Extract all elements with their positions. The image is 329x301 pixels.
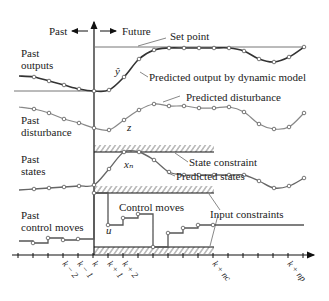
state-constraint-upper-hatch [94, 145, 214, 152]
output-point [137, 57, 141, 61]
disturbance-point [77, 121, 81, 125]
state-point [77, 184, 81, 188]
output-point [152, 48, 156, 52]
output-points [32, 45, 306, 93]
predicted-output-leader [140, 72, 148, 77]
output-point [182, 46, 186, 50]
disturbance-point [287, 125, 291, 129]
past-states-label-2: states [21, 165, 45, 177]
disturbance-point [152, 102, 156, 106]
set-point-leader [138, 38, 166, 46]
output-point [227, 46, 231, 50]
control-point [46, 236, 50, 240]
input-constraints-label: Input constraints [210, 208, 284, 220]
y-hat-label: ŷ [114, 65, 120, 77]
output-point [47, 79, 51, 83]
output-point [302, 45, 306, 49]
state-point [107, 167, 111, 171]
disturbance-point [122, 118, 126, 122]
disturbance-point [257, 122, 261, 126]
state-point [62, 185, 66, 189]
state-point [302, 176, 306, 180]
past-control-label-2: control moves [21, 221, 84, 233]
output-point [77, 87, 81, 91]
tick-label-kp2: k + 2 [120, 259, 140, 280]
output-point [272, 60, 276, 64]
disturbance-point [272, 127, 276, 131]
output-point [107, 88, 111, 92]
tick-label-km1: k − 1 [75, 259, 95, 280]
state-constraint-lower-hatch [94, 186, 214, 193]
past-disturbance-label-2: disturbance [21, 126, 72, 138]
past-disturbance-label-1: Past [21, 114, 39, 126]
state-constraint-leader [175, 153, 188, 162]
state-point [287, 184, 291, 188]
disturbance-point [32, 107, 36, 111]
predicted-output-label: Predicted output by dynamic model [149, 71, 306, 83]
past-outputs-label-2: outputs [21, 59, 53, 71]
disturbance-point [197, 106, 201, 110]
state-point [47, 186, 51, 190]
past-label: Past [49, 25, 67, 37]
tick-label-kp1: k + 1 [105, 259, 125, 280]
z-label: z [126, 121, 132, 133]
control-point [76, 237, 80, 241]
state-point [92, 183, 96, 187]
past-outputs-label-1: Past [21, 47, 39, 59]
disturbance-point [107, 128, 111, 132]
x-n-label: xₙ [123, 158, 133, 170]
control-point [121, 216, 125, 220]
output-point [122, 75, 126, 79]
control-point [31, 241, 35, 245]
state-point [152, 158, 156, 162]
control-point [196, 223, 200, 227]
disturbance-point [92, 126, 96, 130]
set-point-label: Set point [170, 30, 209, 42]
output-point [32, 75, 36, 79]
output-point [167, 46, 171, 50]
past-states-label-1: Past [21, 153, 39, 165]
tick-label-km2: k − 2 [60, 259, 80, 280]
tick-label-knp: k + np [285, 259, 308, 284]
diagram-canvas: Past Future Set point Past outputs ŷ Pre… [0, 0, 329, 301]
disturbance-point [242, 110, 246, 114]
control-moves-label: Control moves [119, 201, 184, 213]
control-point [181, 226, 185, 230]
control-point [211, 223, 215, 227]
tick-label-knc: k + nc [210, 259, 232, 283]
disturbance-point [212, 106, 216, 110]
state-curve [19, 150, 304, 190]
u-label: u [106, 224, 112, 236]
control-point [151, 245, 155, 249]
state-point [122, 150, 126, 154]
disturbance-point [227, 105, 231, 109]
tick-label-k: k [90, 259, 101, 269]
control-point [166, 231, 170, 235]
disturbance-point [182, 104, 186, 108]
future-label: Future [122, 25, 151, 37]
predicted-states-label: Predicted states [176, 170, 245, 182]
control-points [31, 191, 215, 249]
disturbance-point [62, 117, 66, 121]
control-point [92, 191, 96, 195]
output-point [242, 49, 246, 53]
output-point [287, 55, 291, 59]
mpc-diagram: Past Future Set point Past outputs ŷ Pre… [0, 0, 329, 301]
output-point [92, 89, 96, 93]
predicted-disturbance-label: Predicted disturbance [186, 91, 281, 103]
output-point [257, 57, 261, 61]
disturbance-point [167, 104, 171, 108]
disturbance-point [47, 111, 51, 115]
disturbance-point [302, 111, 306, 115]
output-point [212, 46, 216, 50]
state-point [257, 179, 261, 183]
state-constraint-label: State constraint [189, 156, 257, 168]
predicted-disturbance-leader [163, 96, 180, 102]
past-control-label-1: Past [21, 209, 39, 221]
disturbance-point [137, 108, 141, 112]
state-point [137, 150, 141, 154]
output-curve [19, 47, 304, 91]
control-point [61, 238, 65, 242]
output-point [197, 46, 201, 50]
tick-labels: k − 2 k − 1 k k + 1 k + 2 k + nc k + np [60, 259, 308, 284]
